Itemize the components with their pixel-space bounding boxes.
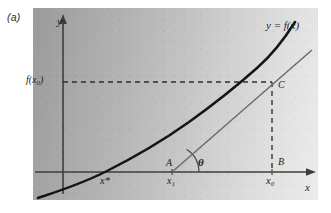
y-value-label-fx0: f(x₀) (26, 75, 43, 85)
root-label-x-star: x* (100, 176, 110, 187)
point-label-a: A (166, 158, 172, 168)
x-axis-label: x (305, 182, 310, 193)
x-value-label-x0: x₀ (266, 176, 274, 187)
curve-label-function: f(x) (284, 19, 299, 31)
x-axis-arrowhead (306, 168, 316, 176)
x-value-label-x1: x₁ (167, 176, 175, 186)
curve-label-prefix: y = (266, 19, 284, 31)
plot-area (33, 8, 318, 200)
y-axis-label: y (57, 16, 62, 27)
figure-panel-a: (a) y x f(x₀) y = f(x) x* (0, 0, 331, 213)
curve-label: y = f(x) (266, 20, 299, 31)
subfigure-label: (a) (7, 12, 20, 23)
angle-label-theta: θ (198, 157, 204, 168)
point-label-b: B (278, 157, 284, 167)
tangent-line (172, 50, 312, 172)
plot-graphics (33, 8, 318, 200)
point-label-c: C (278, 80, 285, 90)
